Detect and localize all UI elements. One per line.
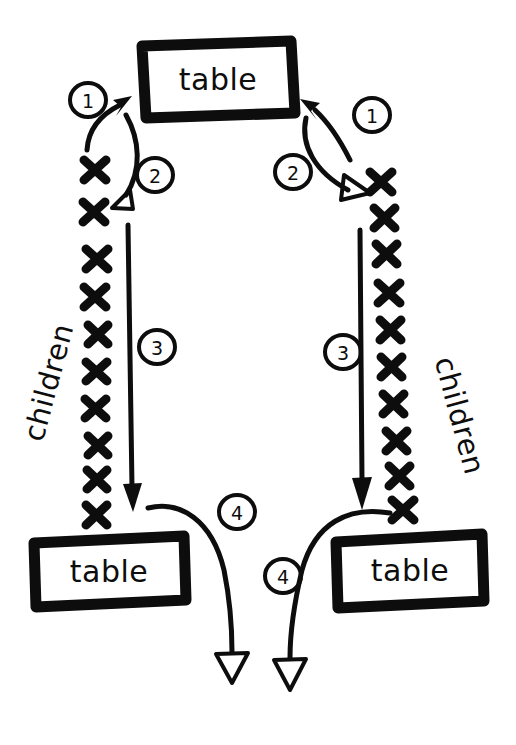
child-mark bbox=[389, 466, 410, 486]
child-mark bbox=[374, 208, 395, 228]
child-mark bbox=[86, 362, 107, 381]
sketch-surface: table table table bbox=[0, 0, 516, 745]
table-top-label: table bbox=[179, 62, 257, 97]
child-mark bbox=[383, 394, 404, 414]
child-mark bbox=[88, 436, 108, 455]
step-badge-2-right: 2 bbox=[275, 155, 311, 189]
table-bottom-left-label: table bbox=[70, 554, 148, 589]
step-badge-label: 4 bbox=[277, 566, 289, 588]
step-badge-label: 2 bbox=[287, 162, 299, 184]
step-badge-label: 1 bbox=[82, 90, 94, 112]
child-mark bbox=[83, 202, 105, 222]
child-mark bbox=[386, 431, 407, 451]
step-badge-label: 4 bbox=[231, 502, 243, 524]
step-badge-3-left: 3 bbox=[139, 330, 175, 364]
child-mark bbox=[87, 470, 107, 489]
arrow-step2-left bbox=[112, 115, 137, 209]
child-mark bbox=[88, 325, 108, 344]
step-badge-4-left: 4 bbox=[219, 495, 255, 529]
children-marks-left bbox=[83, 160, 108, 525]
child-mark bbox=[380, 320, 401, 340]
step-badge-label: 1 bbox=[366, 105, 378, 127]
arrow-step3-left bbox=[123, 225, 142, 512]
children-label-right: children bbox=[428, 353, 492, 478]
child-mark bbox=[85, 399, 106, 418]
diagram-canvas: table table table bbox=[0, 0, 516, 745]
children-label-left: children bbox=[16, 320, 80, 445]
child-mark bbox=[392, 500, 414, 520]
child-mark bbox=[86, 505, 107, 525]
child-mark bbox=[84, 160, 106, 180]
children-marks-right bbox=[370, 172, 414, 520]
step-badge-label: 2 bbox=[149, 165, 161, 187]
step-badge-1-right: 1 bbox=[354, 98, 390, 132]
arrow-step3-right bbox=[352, 230, 372, 510]
child-mark bbox=[376, 244, 397, 264]
step-badge-2-left: 2 bbox=[137, 158, 173, 192]
step-badge-3-right: 3 bbox=[325, 335, 361, 369]
child-mark bbox=[370, 172, 392, 192]
step-badge-label: 3 bbox=[151, 337, 163, 359]
step-badge-1-left: 1 bbox=[70, 83, 106, 117]
table-bottom-right-label: table bbox=[371, 553, 449, 588]
child-mark bbox=[86, 249, 108, 269]
child-mark bbox=[84, 287, 106, 307]
child-mark bbox=[381, 357, 402, 377]
child-mark bbox=[378, 283, 400, 303]
step-badge-4-right: 4 bbox=[265, 559, 301, 593]
step-badge-label: 3 bbox=[337, 342, 349, 364]
